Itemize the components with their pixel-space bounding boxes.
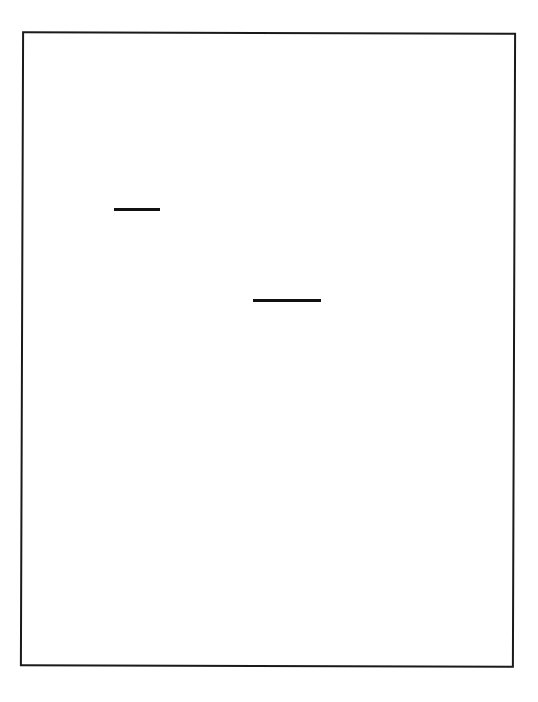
document-page	[0, 0, 538, 702]
page-border-frame	[20, 31, 516, 668]
blank-line-mark-1	[114, 208, 160, 211]
blank-line-mark-2	[253, 299, 321, 302]
